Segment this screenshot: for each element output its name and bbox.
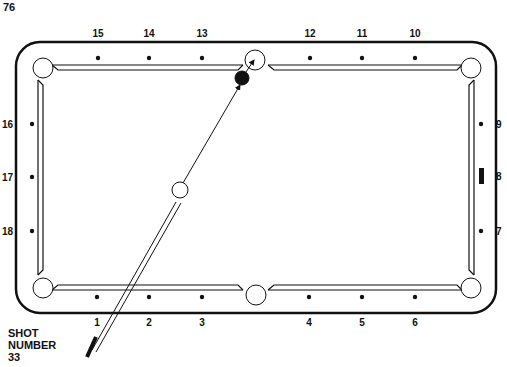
diamond-2 bbox=[147, 295, 151, 299]
diamond-label-11: 11 bbox=[357, 28, 368, 39]
diamond-markers bbox=[30, 56, 483, 299]
sight-marker-8 bbox=[479, 168, 484, 184]
diamond-label-3: 3 bbox=[199, 317, 205, 328]
pocket-bottom-middle bbox=[246, 285, 266, 305]
diamond-label-1: 1 bbox=[94, 317, 100, 328]
diamond-17 bbox=[30, 175, 34, 179]
shot-label-line1: SHOT bbox=[8, 327, 56, 339]
diamond-label-5: 5 bbox=[359, 317, 365, 328]
diamond-10 bbox=[413, 56, 417, 60]
diamond-16 bbox=[30, 122, 34, 126]
shot-label-line2: NUMBER bbox=[8, 339, 56, 351]
diamond-6 bbox=[413, 295, 417, 299]
pool-table-diagram: 151413121110123456161718987 bbox=[0, 0, 507, 367]
pocket-bottom-left bbox=[33, 278, 53, 298]
diamond-labels: 151413121110123456161718987 bbox=[2, 28, 502, 328]
pocket-top-middle bbox=[245, 50, 265, 70]
diamond-label-9: 9 bbox=[496, 119, 502, 130]
pockets bbox=[33, 50, 481, 305]
cue-stick bbox=[87, 202, 181, 357]
diamond-7 bbox=[479, 229, 483, 233]
diamond-label-2: 2 bbox=[146, 317, 152, 328]
diamond-11 bbox=[360, 56, 364, 60]
diamond-label-18: 18 bbox=[2, 226, 14, 237]
diamond-3 bbox=[200, 295, 204, 299]
diamond-label-16: 16 bbox=[2, 119, 14, 130]
shot-number-label: SHOT NUMBER 33 bbox=[8, 327, 56, 363]
diamond-label-15: 15 bbox=[92, 28, 104, 39]
diamond-label-4: 4 bbox=[306, 317, 312, 328]
diamond-18 bbox=[30, 229, 34, 233]
diamond-label-12: 12 bbox=[304, 28, 316, 39]
diamond-label-10: 10 bbox=[409, 28, 421, 39]
diamond-13 bbox=[200, 56, 204, 60]
diamond-15 bbox=[96, 56, 100, 60]
diamond-9 bbox=[479, 122, 483, 126]
diamond-5 bbox=[360, 295, 364, 299]
pocket-top-right bbox=[461, 58, 481, 78]
cue-ball bbox=[172, 182, 188, 198]
cue-ball-path-arrow bbox=[183, 85, 240, 183]
diamond-4 bbox=[307, 295, 311, 299]
table-rail-outline bbox=[16, 42, 496, 313]
cushions bbox=[38, 65, 474, 290]
diamond-14 bbox=[147, 56, 151, 60]
diamond-label-7: 7 bbox=[496, 226, 502, 237]
diamond-label-17: 17 bbox=[2, 172, 14, 183]
diamond-12 bbox=[308, 56, 312, 60]
pocket-top-left bbox=[33, 58, 53, 78]
diamond-label-14: 14 bbox=[143, 28, 155, 39]
object-ball bbox=[235, 71, 249, 85]
pocket-bottom-right bbox=[461, 278, 481, 298]
diamond-label-6: 6 bbox=[412, 317, 418, 328]
shot-number-value: 33 bbox=[8, 351, 56, 363]
diamond-label-13: 13 bbox=[196, 28, 208, 39]
diamond-1 bbox=[95, 295, 99, 299]
diamond-label-8: 8 bbox=[496, 171, 502, 182]
